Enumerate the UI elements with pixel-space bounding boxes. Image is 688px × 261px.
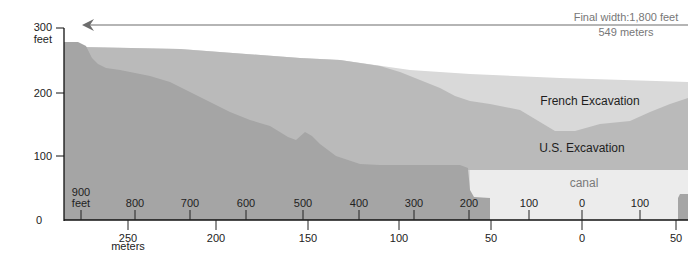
final-width-meters: 549 meters <box>598 26 653 39</box>
x-meter-tick-50-right: 50 <box>670 233 682 244</box>
x-meter-tick-150: 150 <box>299 233 317 244</box>
x-feet-tick-300: 300 <box>405 198 423 209</box>
x-meter-unit: meters <box>111 241 145 252</box>
x-feet-tick-100-right: 100 <box>631 198 649 209</box>
meter-ticks <box>128 220 676 230</box>
x-feet-tick-0: 0 <box>579 198 585 209</box>
x-feet-tick-100-left: 100 <box>520 198 538 209</box>
x-meter-tick-0: 0 <box>579 233 585 244</box>
x-feet-unit: feet <box>72 198 90 209</box>
y-tick-0: 0 <box>2 215 42 226</box>
x-feet-tick-600: 600 <box>237 198 255 209</box>
x-feet-tick-400: 400 <box>350 198 368 209</box>
x-meter-tick-200: 200 <box>207 233 225 244</box>
x-feet-tick-800: 800 <box>126 198 144 209</box>
x-meter-tick-50-left: 50 <box>485 233 497 244</box>
right-bank <box>678 194 688 220</box>
us-excavation-label: U.S. Excavation <box>539 143 624 154</box>
canal-label: canal <box>570 178 599 189</box>
final-width-feet: Final width:1,800 feet <box>574 11 679 24</box>
x-meter-tick-100: 100 <box>390 233 408 244</box>
x-feet-tick-700: 700 <box>181 198 199 209</box>
y-tick-200: 200 <box>12 88 52 99</box>
y-tick-300: 300 <box>12 22 52 33</box>
x-feet-tick-500: 500 <box>294 198 312 209</box>
cross-section-graphic <box>0 0 688 261</box>
y-unit-label: feet <box>12 34 52 45</box>
x-feet-tick-200: 200 <box>460 198 478 209</box>
y-tick-100: 100 <box>12 151 52 162</box>
canal-cross-section-diagram: 300 feet 200 100 0 900 feet 800 700 600 … <box>0 0 688 261</box>
french-excavation-label: French Excavation <box>540 96 639 107</box>
